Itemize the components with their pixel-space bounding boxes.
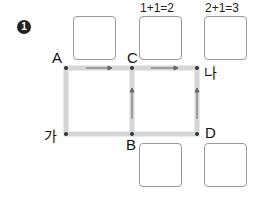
label-c: C xyxy=(127,49,138,66)
answer-box-d[interactable] xyxy=(204,143,247,187)
label-na: 나 xyxy=(204,62,217,82)
arrows xyxy=(86,66,199,119)
label-b: B xyxy=(126,136,136,153)
answer-box-a[interactable] xyxy=(73,16,116,60)
equation-na: 2+1=3 xyxy=(205,1,239,15)
label-d: D xyxy=(205,124,216,141)
equation-c: 1+1=2 xyxy=(140,1,174,15)
answer-box-b[interactable] xyxy=(139,143,182,187)
answer-box-c[interactable] xyxy=(139,16,182,60)
point-ga-dot xyxy=(64,132,68,136)
point-a-dot xyxy=(64,66,68,70)
point-c-dot xyxy=(130,66,134,70)
label-a: A xyxy=(52,49,62,66)
label-ga: 가 xyxy=(44,125,57,145)
answer-box-na[interactable] xyxy=(204,16,247,60)
point-na-dot xyxy=(195,66,199,70)
point-d-dot xyxy=(195,132,199,136)
